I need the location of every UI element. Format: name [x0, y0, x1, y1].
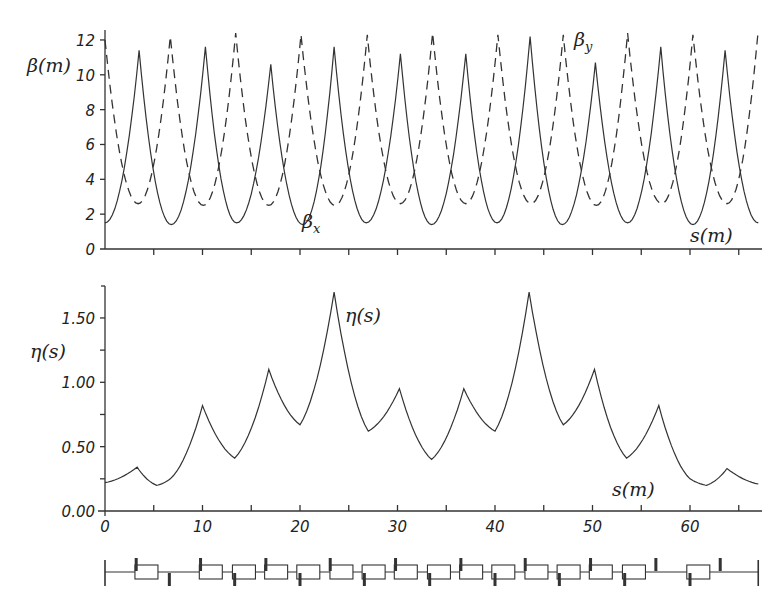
dipole-magnet [330, 565, 353, 579]
dipole-magnet [199, 565, 222, 579]
focusing-quadrupole [135, 558, 138, 571]
dipole-magnet [135, 565, 158, 579]
focusing-quadrupole [394, 558, 397, 571]
beta-plot: 024681012 β(m) βx βy s(m) [26, 28, 762, 259]
beta-ytick-label: 4 [85, 171, 95, 189]
eta-xtick-label: 30 [388, 518, 407, 536]
dispersion-plot: 0.000.501.001.50 0102030405060 η(s) η(s)… [30, 286, 762, 536]
eta-xtick-label: 10 [193, 518, 212, 536]
defocusing-quadrupole [558, 573, 561, 586]
eta-xtick-label: 40 [485, 518, 504, 536]
beta-x-curve [105, 37, 758, 225]
beta-ytick-label: 6 [85, 136, 95, 154]
beta-ytick-label: 10 [76, 67, 95, 85]
lattice-functions-figure: 024681012 β(m) βx βy s(m) 0.000.501.001.… [0, 0, 783, 607]
eta-ytick-label: 1.50 [62, 310, 95, 328]
dipole-magnet [394, 565, 417, 579]
eta-s-axis-label: s(m) [612, 478, 655, 500]
defocusing-quadrupole [363, 573, 366, 586]
defocusing-quadrupole [299, 573, 302, 586]
eta-ytick-label: 1.00 [62, 374, 95, 392]
defocusing-quadrupole [494, 573, 497, 586]
focusing-quadrupole [264, 558, 267, 571]
eta-xtick-label: 60 [680, 518, 699, 536]
focusing-quadrupole [654, 558, 657, 571]
dipole-magnet [525, 565, 548, 579]
beta-ytick-label: 0 [85, 241, 95, 259]
beta-x-label: βx [301, 210, 321, 236]
dipole-magnet [460, 565, 483, 579]
eta-y-axis-label: η(s) [30, 340, 66, 362]
beta-s-axis-label: s(m) [690, 224, 733, 246]
eta-curve [105, 292, 758, 485]
focusing-quadrupole [199, 558, 202, 571]
defocusing-quadrupole [233, 573, 236, 586]
magnet-lattice [105, 558, 758, 586]
focusing-quadrupole [329, 558, 332, 571]
eta-ytick-label: 0.50 [62, 439, 95, 457]
beta-ytick-label: 2 [85, 206, 95, 224]
focusing-quadrupole [719, 558, 722, 571]
defocusing-quadrupole [689, 573, 692, 586]
eta-xtick-label: 20 [290, 518, 309, 536]
eta-xtick-label: 0 [100, 518, 110, 536]
defocusing-quadrupole [623, 573, 626, 586]
dipole-magnet [589, 565, 612, 579]
eta-ytick-label: 0.00 [62, 503, 95, 521]
dipole-magnet [265, 565, 288, 579]
eta-xtick-label: 50 [583, 518, 602, 536]
defocusing-quadrupole [168, 573, 171, 586]
focusing-quadrupole [459, 558, 462, 571]
beta-y-axis-label: β(m) [26, 54, 71, 76]
beta-y-label: βy [573, 28, 593, 54]
focusing-quadrupole [589, 558, 592, 571]
focusing-quadrupole [524, 558, 527, 571]
eta-curve-label: η(s) [345, 304, 381, 326]
beta-ytick-label: 12 [76, 32, 95, 50]
beta-ytick-label: 8 [85, 102, 95, 120]
defocusing-quadrupole [428, 573, 431, 586]
